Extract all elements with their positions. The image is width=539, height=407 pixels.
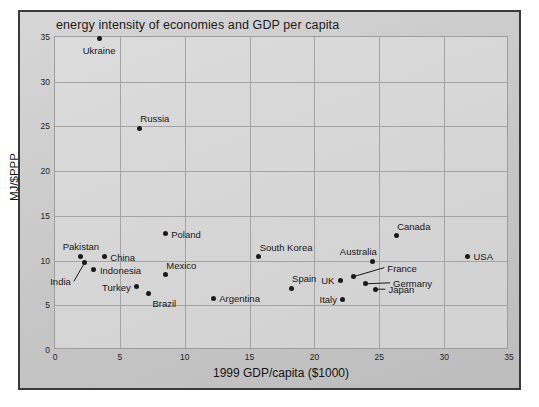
point-label: Brazil — [152, 297, 176, 308]
data-point — [102, 254, 107, 259]
y-tick-label: 5 — [45, 300, 50, 310]
y-tick-label: 15 — [41, 211, 50, 221]
data-point — [351, 274, 356, 279]
label-leader-line — [55, 37, 56, 38]
data-point — [163, 272, 168, 277]
x-tick-label: 0 — [53, 352, 58, 362]
data-point — [370, 259, 375, 264]
data-point — [134, 284, 139, 289]
point-label: UK — [321, 275, 334, 286]
x-tick-label: 25 — [375, 352, 384, 362]
data-point — [340, 297, 345, 302]
data-point — [97, 36, 102, 41]
point-label: Japan — [388, 284, 414, 295]
x-tick-label: 10 — [180, 352, 189, 362]
gridline-horizontal — [55, 216, 507, 217]
y-axis-label: MJ/$PPP — [8, 153, 20, 201]
data-point — [91, 267, 96, 272]
data-point — [211, 296, 216, 301]
gridline-horizontal — [55, 126, 507, 127]
point-label: Ukraine — [83, 44, 116, 55]
point-label: South Korea — [260, 241, 313, 252]
data-point — [465, 254, 470, 259]
data-point — [289, 286, 294, 291]
data-point — [146, 291, 151, 296]
data-point — [373, 287, 378, 292]
chart-title: energy intensity of economies and GDP pe… — [56, 18, 339, 32]
data-point — [363, 281, 368, 286]
label-leader-line — [55, 37, 56, 38]
point-label: Italy — [320, 294, 337, 305]
label-leader-line — [55, 37, 56, 38]
x-tick-label: 15 — [245, 352, 254, 362]
y-tick-label: 0 — [45, 345, 50, 355]
point-label: Indonesia — [100, 264, 141, 275]
point-label: Russia — [140, 113, 169, 124]
y-tick-label: 30 — [41, 77, 50, 87]
point-label: Poland — [171, 228, 201, 239]
gridline-vertical — [120, 37, 121, 348]
point-label: Spain — [292, 273, 316, 284]
data-point — [163, 231, 168, 236]
plot-area: 05101520253035 05101520253035 UkraineRus… — [54, 36, 508, 349]
point-label: France — [387, 262, 417, 273]
gridline-horizontal — [55, 82, 507, 83]
point-label: Canada — [397, 220, 430, 231]
x-tick-label: 20 — [310, 352, 319, 362]
gridline-vertical — [444, 37, 445, 348]
gridline-horizontal — [55, 305, 507, 306]
point-label: India — [50, 276, 71, 287]
x-axis-label: 1999 GDP/capita ($1000) — [55, 366, 507, 380]
gridline-vertical — [314, 37, 315, 348]
x-tick-label: 35 — [504, 352, 513, 362]
y-tick-label: 25 — [41, 121, 50, 131]
data-point — [137, 126, 142, 131]
data-point — [82, 260, 87, 265]
gridline-horizontal — [55, 171, 507, 172]
point-label: USA — [473, 251, 493, 262]
point-label: Turkey — [102, 281, 131, 292]
point-label: Australia — [340, 246, 377, 257]
x-tick-label: 5 — [117, 352, 122, 362]
point-label: Mexico — [166, 259, 196, 270]
point-label: China — [110, 251, 135, 262]
y-tick-label: 35 — [41, 32, 50, 42]
point-label: Pakistan — [63, 241, 99, 252]
data-point — [394, 233, 399, 238]
figure-frame: energy intensity of economies and GDP pe… — [18, 10, 521, 390]
label-leader-line — [55, 37, 56, 38]
x-tick-label: 30 — [439, 352, 448, 362]
gridline-vertical — [379, 37, 380, 348]
point-label: Argentina — [219, 293, 260, 304]
gridline-vertical — [185, 37, 186, 348]
y-tick-label: 20 — [41, 166, 50, 176]
data-point — [78, 254, 83, 259]
data-point — [256, 254, 261, 259]
data-point — [338, 278, 343, 283]
y-tick-label: 10 — [41, 256, 50, 266]
